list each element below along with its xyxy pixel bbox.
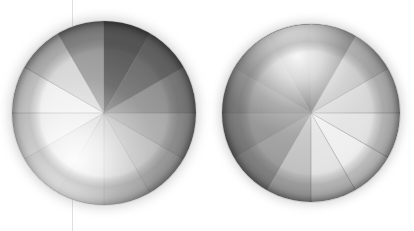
render-canvas: 0°–30°330°–0°300°–330°270°–300°240°–270°… <box>0 0 414 231</box>
sphere-left-figure[interactable]: 0°–30°330°–0°300°–330°270°–300°240°–270°… <box>0 0 224 231</box>
sphere-right-figure[interactable]: 0°–30°330°–0°300°–330°270°–300°240°–270°… <box>195 0 414 229</box>
